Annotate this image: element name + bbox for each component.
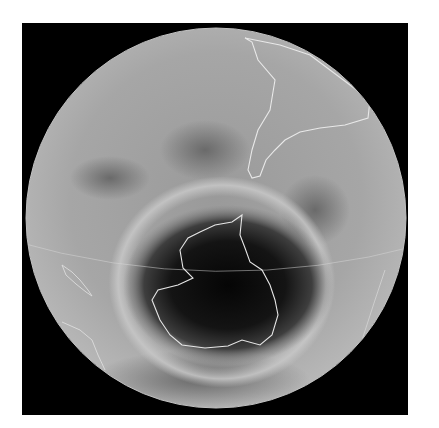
low-ozone-patch-north <box>160 120 250 180</box>
ozone-globe <box>0 0 439 428</box>
ozone-hole <box>123 205 333 365</box>
low-ozone-patch-west <box>70 156 150 200</box>
